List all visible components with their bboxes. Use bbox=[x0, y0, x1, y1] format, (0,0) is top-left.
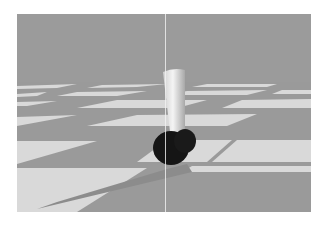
simulation-render bbox=[17, 14, 311, 212]
vertical-guide-line bbox=[165, 14, 166, 212]
scene-canvas bbox=[17, 14, 311, 212]
wheel-hub bbox=[174, 129, 196, 153]
